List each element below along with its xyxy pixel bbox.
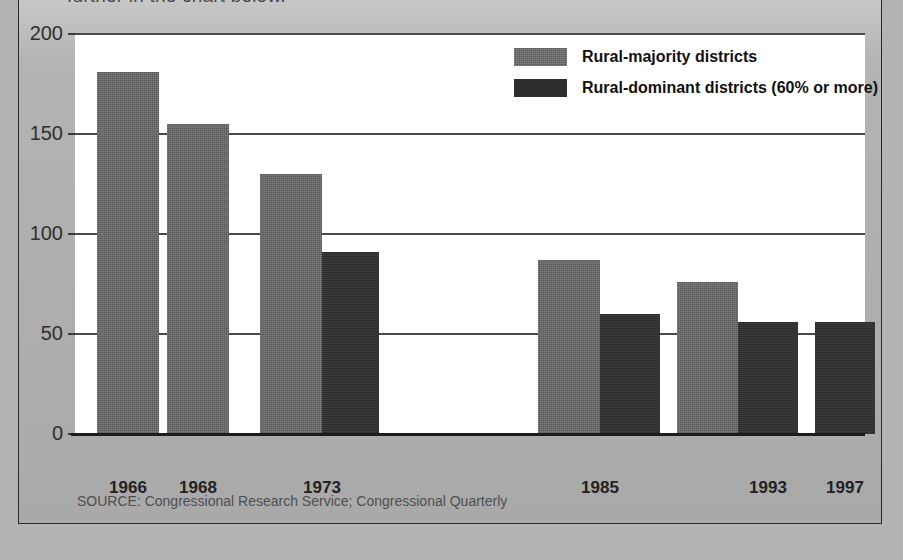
- bar-1973-rural-majority: [260, 174, 322, 434]
- y-axis-tick: [68, 133, 75, 135]
- bar-1968-rural-majority: [167, 124, 229, 434]
- legend-item-rural-majority: Rural-majority districts: [514, 45, 878, 69]
- legend-swatch-icon-rural-majority: [514, 48, 567, 66]
- legend-item-rural-dominant: Rural-dominant districts (60% or more): [514, 76, 878, 100]
- legend-label-rural-majority: Rural-majority districts: [582, 48, 757, 66]
- y-axis-label: 200: [30, 22, 63, 45]
- bar-1997-rural-dominant: [815, 322, 875, 434]
- y-axis-tick: [68, 33, 75, 35]
- legend-swatch-icon-rural-dominant: [514, 79, 567, 97]
- bar-1985-rural-majority: [538, 260, 600, 434]
- x-axis-label-1997: 1997: [826, 478, 864, 498]
- bar-1993-rural-dominant: [738, 322, 798, 434]
- bar-1985-rural-dominant: [600, 314, 660, 434]
- x-axis-line: [71, 433, 865, 436]
- screenshot-root: further in the chart below. 050100150200…: [0, 0, 903, 560]
- chart-card: further in the chart below. 050100150200…: [18, 0, 882, 524]
- source-note: SOURCE: Congressional Research Service; …: [77, 493, 507, 509]
- y-axis-tick: [68, 333, 75, 335]
- y-axis-label: 150: [30, 122, 63, 145]
- legend-label-rural-dominant: Rural-dominant districts (60% or more): [582, 79, 878, 97]
- y-axis-tick: [68, 233, 75, 235]
- bar-1966-rural-majority: [97, 72, 159, 434]
- y-axis-label: 50: [41, 322, 63, 345]
- y-axis-label: 0: [52, 422, 63, 445]
- bar-1973-rural-dominant: [322, 252, 379, 434]
- lead-paragraph: further in the chart below.: [67, 0, 487, 7]
- chart-legend: Rural-majority districts Rural-dominant …: [514, 45, 878, 107]
- x-axis-label-1993: 1993: [749, 478, 787, 498]
- y-axis-label: 100: [30, 222, 63, 245]
- bar-1993-rural-majority: [677, 282, 738, 434]
- x-axis-label-1985: 1985: [581, 478, 619, 498]
